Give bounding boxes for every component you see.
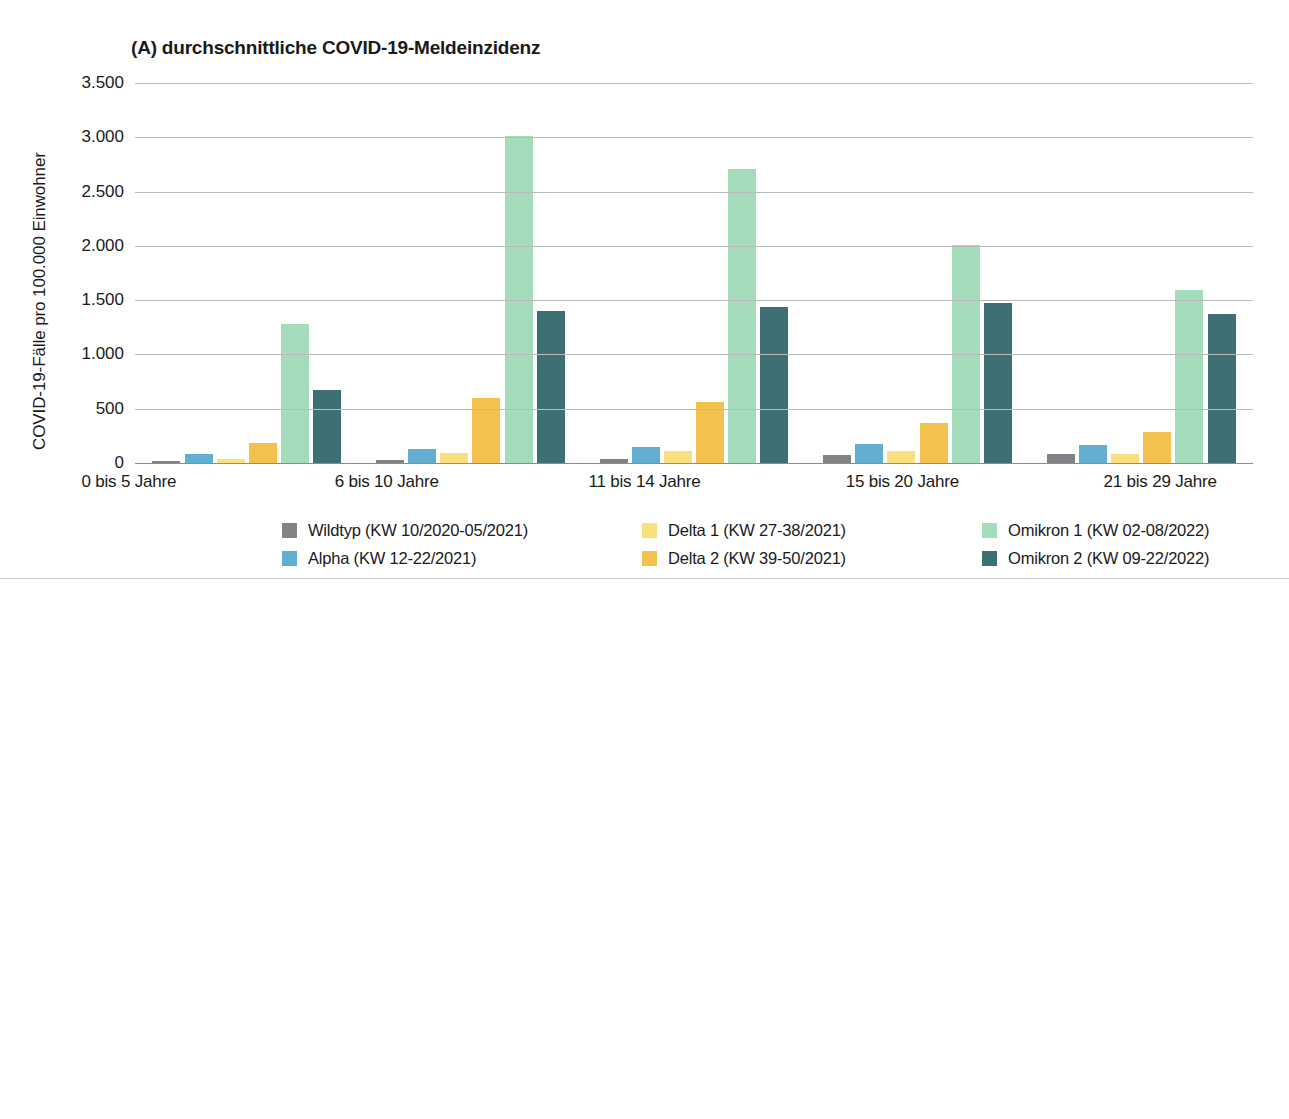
chart-a-plot-area: 3.5003.0002.5002.0001.5001.0005000 [135,83,1253,463]
y-tick-label-a-2000: 2.000 [81,236,124,256]
legend-swatch-icon [282,551,297,566]
bar [185,454,213,463]
legend-item: Wildtyp (KW 10/2020-05/2021) [282,521,642,540]
bar [664,451,692,463]
bar [408,449,436,463]
gridline-a-3000: 3.000 [135,137,1253,138]
chart-panel-b: (B) durchschnittliche SARI-COVID-Inziden… [0,580,1289,1119]
y-tick-label-a-1000: 1.000 [81,344,124,364]
legend-label: Delta 1 (KW 27-38/2021) [668,521,846,540]
chart-a-title: (A) durchschnittliche COVID-19-Meldeinzi… [131,37,540,59]
bar [887,451,915,463]
y-tick-label-a-500: 500 [96,399,124,419]
bar [1047,454,1075,463]
bar [920,423,948,463]
bar [537,311,565,463]
bar [1111,454,1139,463]
bar [823,455,851,463]
bar [249,443,277,463]
bar [632,447,660,463]
y-tick-label-a-3000: 3.000 [81,127,124,147]
y-tick-label-a-0: 0 [115,453,124,473]
legend-label: Delta 2 (KW 39-50/2021) [668,549,846,568]
bar [281,324,309,463]
panel-divider [0,578,1289,579]
bar-group [135,83,359,463]
chart-a-y-axis-title: COVID-19-Fälle pro 100.000 Einwohner [30,152,50,450]
legend-item: Delta 2 (KW 39-50/2021) [642,549,982,568]
bar [313,390,341,463]
legend-label: Alpha (KW 12-22/2021) [308,549,476,568]
bar [1175,290,1203,463]
x-axis-tick-label: 15 bis 20 Jahre [773,472,1031,492]
legend-swatch-icon [982,551,997,566]
gridline-a-2500: 2.500 [135,192,1253,193]
bar [984,303,1012,463]
legend-swatch-icon [642,523,657,538]
y-tick-label-a-1500: 1.500 [81,290,124,310]
x-axis-tick-label: 6 bis 10 Jahre [258,472,516,492]
bar-group [1029,83,1253,463]
chart-a-legend: Wildtyp (KW 10/2020-05/2021)Delta 1 (KW … [282,521,1289,568]
chart-a-bar-groups [135,83,1253,463]
x-axis-tick-label: 21 bis 29 Jahre [1031,472,1289,492]
bar [696,402,724,463]
x-axis-baseline-a: 0 [135,463,1253,464]
bar [728,169,756,463]
y-tick-label-a-3500: 3.500 [81,73,124,93]
legend-item: Alpha (KW 12-22/2021) [282,549,642,568]
bar-group [359,83,583,463]
legend-swatch-icon [982,523,997,538]
bar-group [582,83,806,463]
legend-label: Wildtyp (KW 10/2020-05/2021) [308,521,528,540]
gridline-a-1500: 1.500 [135,300,1253,301]
gridline-a-1000: 1.000 [135,354,1253,355]
bar [1079,445,1107,463]
bar [1143,432,1171,463]
legend-swatch-icon [282,523,297,538]
legend-label: Omikron 1 (KW 02-08/2022) [1008,521,1209,540]
chart-panel-a: (A) durchschnittliche COVID-19-Meldeinzi… [0,0,1289,580]
legend-item: Omikron 2 (KW 09-22/2022) [982,549,1289,568]
legend-item: Delta 1 (KW 27-38/2021) [642,521,982,540]
bar [760,307,788,463]
x-axis-tick-label: 0 bis 5 Jahre [0,472,258,492]
gridline-a-3500: 3.500 [135,83,1253,84]
y-tick-label-a-2500: 2.500 [81,182,124,202]
chart-a-x-axis-labels: 0 bis 5 Jahre6 bis 10 Jahre11 bis 14 Jah… [0,472,1289,492]
bar [1208,314,1236,463]
bar [440,453,468,463]
legend-item: Omikron 1 (KW 02-08/2022) [982,521,1289,540]
x-axis-tick-label: 11 bis 14 Jahre [516,472,774,492]
gridline-a-2000: 2.000 [135,246,1253,247]
gridline-a-500: 500 [135,409,1253,410]
bar [472,398,500,463]
legend-label: Omikron 2 (KW 09-22/2022) [1008,549,1209,568]
bar-group [806,83,1030,463]
bar [855,444,883,463]
legend-swatch-icon [642,551,657,566]
